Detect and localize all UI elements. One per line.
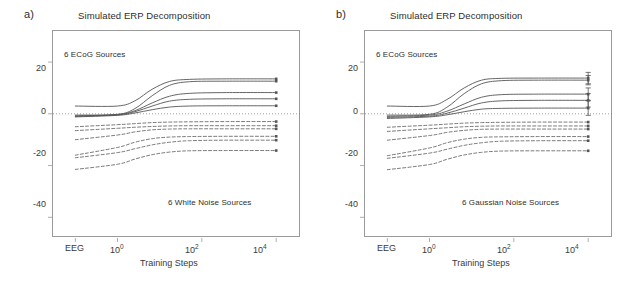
- ytick-b-3: -40: [328, 199, 358, 209]
- curve-a-11: [75, 151, 276, 170]
- endpoint-marker-a-9: [275, 135, 278, 138]
- xtick-a-2-text: 10: [185, 245, 195, 255]
- curve-b-9: [387, 137, 588, 156]
- ytick-a-3: -40: [16, 199, 46, 209]
- annotation-ecog-b: 6 ECoG Sources: [376, 50, 437, 59]
- xtick-b-3-exp: 4: [575, 243, 579, 250]
- panel-a: a) Simulated ERP Decomposition 6 ECoG So…: [0, 0, 312, 281]
- xtick-b-2-text: 10: [497, 245, 507, 255]
- endpoint-marker-b-10: [587, 139, 590, 142]
- annotation-ecog-a: 6 ECoG Sources: [64, 50, 125, 59]
- y-tick-marks-a: [48, 31, 56, 238]
- xtick-b-2: 102: [497, 243, 511, 255]
- xtick-b-1: 100: [422, 243, 436, 255]
- ytick-b-1: 0: [328, 106, 358, 116]
- xtick-a-2-exp: 2: [195, 243, 199, 250]
- curve-b-10: [387, 141, 588, 159]
- xtick-b-3: 104: [565, 243, 579, 255]
- endpoint-marker-b-11: [587, 150, 590, 153]
- ytick-b-0: 20: [328, 63, 358, 73]
- endpoint-marker-a-11: [275, 149, 278, 152]
- xtick-a-eeg: EEG: [65, 243, 84, 253]
- curve-b-3: [387, 94, 588, 116]
- panel-b-label: b): [336, 8, 346, 20]
- curve-a-3: [75, 93, 276, 116]
- xtick-b-eeg-text: EEG: [377, 243, 396, 253]
- xtick-a-3-exp: 4: [263, 243, 267, 250]
- xtick-b-2-exp: 2: [507, 243, 511, 250]
- panel-b: b) Simulated ERP Decomposition 6 ECoG So…: [312, 0, 624, 281]
- endpoint-marker-a-3: [275, 91, 278, 94]
- xtick-b-3-text: 10: [565, 245, 575, 255]
- xtick-a-eeg-text: EEG: [65, 243, 84, 253]
- curve-b-2: [387, 80, 588, 115]
- xtick-a-1: 100: [110, 243, 124, 255]
- endpoint-marker-a-5: [275, 104, 278, 107]
- xaxis-label-a: Training Steps: [140, 258, 198, 268]
- endpoint-marker-a-1: [275, 78, 278, 81]
- endpoint-marker-b-8: [587, 128, 590, 131]
- panel-a-label: a): [24, 8, 34, 20]
- xtick-a-2: 102: [185, 243, 199, 255]
- endpoint-marker-a-2: [275, 80, 278, 83]
- curve-a-9: [75, 136, 276, 155]
- endpoint-marker-a-6: [275, 120, 278, 123]
- panel-a-title: Simulated ERP Decomposition: [78, 10, 210, 21]
- ytick-a-0: 20: [16, 63, 46, 73]
- curve-a-4: [75, 99, 276, 117]
- panel-b-title: Simulated ERP Decomposition: [390, 10, 522, 21]
- endpoint-marker-b-7: [587, 125, 590, 128]
- curve-b-11: [387, 151, 588, 170]
- curve-a-10: [75, 140, 276, 158]
- y-tick-marks-b: [360, 31, 368, 238]
- xtick-b-1-exp: 0: [432, 243, 436, 250]
- endpoint-marker-b-9: [587, 135, 590, 138]
- endpoint-marker-a-10: [275, 139, 278, 142]
- annotation-noise-b: 6 Gaussian Noise Sources: [462, 198, 559, 207]
- curve-b-8: [387, 129, 588, 140]
- endpoint-marker-a-7: [275, 124, 278, 127]
- xtick-a-1-text: 10: [110, 245, 120, 255]
- ytick-a-2: -20: [16, 148, 46, 158]
- curve-b-7: [387, 126, 588, 131]
- xtick-b-1-text: 10: [422, 245, 432, 255]
- annotation-noise-a: 6 White Noise Sources: [168, 198, 251, 207]
- ytick-a-1: 0: [16, 106, 46, 116]
- figure-root: a) Simulated ERP Decomposition 6 ECoG So…: [0, 0, 624, 281]
- curve-a-8: [75, 129, 276, 140]
- xtick-a-3: 104: [253, 243, 267, 255]
- xtick-a-1-exp: 0: [120, 243, 124, 250]
- endpoint-marker-a-4: [275, 97, 278, 100]
- curve-a-2: [75, 81, 276, 115]
- xtick-a-3-text: 10: [253, 245, 263, 255]
- endpoint-marker-b-6: [587, 121, 590, 124]
- ytick-b-2: -20: [328, 148, 358, 158]
- xaxis-label-b: Training Steps: [452, 258, 510, 268]
- endpoint-marker-a-8: [275, 128, 278, 131]
- curve-a-7: [75, 126, 276, 131]
- xtick-b-eeg: EEG: [377, 243, 396, 253]
